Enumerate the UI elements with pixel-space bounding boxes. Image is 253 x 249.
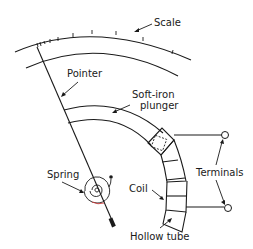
plunger-arrowhead-icon: [112, 109, 117, 113]
scale-label: Scale: [154, 17, 181, 28]
spring-label: Spring: [47, 169, 79, 180]
coil-label: Coil: [129, 183, 148, 194]
terminals-arrow-down: [216, 180, 224, 202]
plunger-label-line1: Soft-iron: [132, 89, 174, 100]
terminals-arrow-up: [216, 142, 222, 165]
terminals-arrowhead-up-icon: [220, 139, 224, 144]
spring-arrow: [62, 182, 81, 191]
coil-arrow: [152, 190, 162, 198]
plunger-label-line2: plunger: [140, 100, 179, 111]
hollow-tube-label: Hollow tube: [130, 231, 189, 242]
pointer-label: Pointer: [67, 68, 103, 79]
pointer-tail-weight: [109, 218, 116, 228]
coil-tube: [148, 128, 187, 232]
moving-iron-instrument-diagram: Scale Pointer Soft-iron plunger Coil Hol…: [0, 0, 253, 249]
pointer-arrow: [63, 82, 78, 95]
terminal-top-icon: [222, 132, 229, 139]
plunger-inner-arc: [68, 119, 151, 145]
terminals-label: Terminals: [195, 167, 243, 178]
spring-coil: [84, 177, 111, 203]
terminal-bottom-icon: [225, 205, 232, 212]
terminals-arrowhead-down-icon: [221, 200, 225, 205]
spring-arrowhead-icon: [79, 189, 84, 193]
scale-ticks: [37, 30, 173, 54]
scale-arrowhead-icon: [134, 28, 139, 32]
spring-anchor-dot: [109, 175, 113, 179]
